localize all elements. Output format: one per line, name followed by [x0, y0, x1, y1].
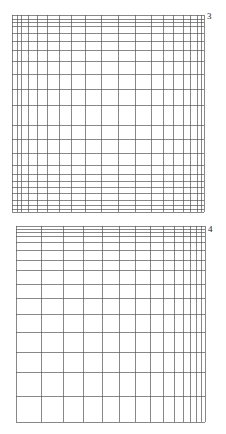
figure-label-3: 3: [207, 11, 212, 21]
figure-label-4: 4: [208, 224, 213, 234]
grid-figures: 3 4: [0, 0, 226, 434]
grid-figure-4: [16, 226, 206, 423]
grid-figure-3: [12, 15, 205, 213]
